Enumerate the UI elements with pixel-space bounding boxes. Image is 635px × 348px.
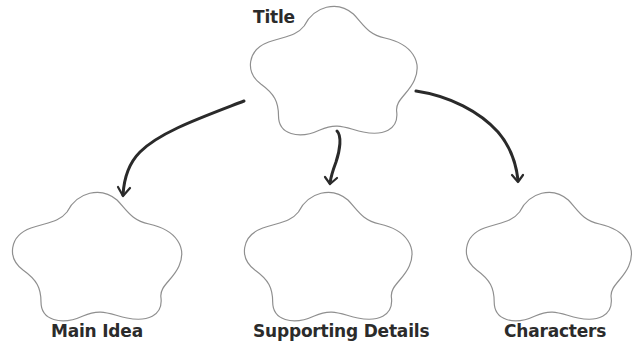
diagram-canvas	[0, 0, 635, 348]
main-idea-cloud	[13, 192, 182, 320]
characters-cloud	[466, 192, 631, 320]
supporting-details-cloud	[244, 192, 411, 320]
characters-label: Characters	[504, 323, 606, 340]
arrow-to-supporting-details	[325, 131, 340, 184]
main-idea-label: Main Idea	[51, 323, 143, 340]
title-label: Title	[253, 9, 295, 26]
supporting-details-label: Supporting Details	[253, 323, 429, 340]
arrow-to-characters	[416, 91, 523, 182]
arrow-to-main-idea	[118, 101, 244, 196]
